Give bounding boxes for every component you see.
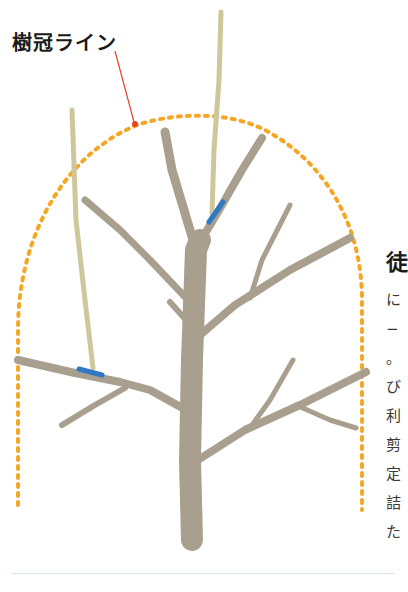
side-text-line: 定: [386, 460, 406, 489]
side-text-line: に: [386, 286, 406, 315]
side-text-line: 詰: [386, 489, 406, 518]
tree-branches: [18, 132, 366, 540]
left-water-sprout: [72, 110, 93, 368]
bottom-divider: [12, 573, 394, 574]
center-water-sprout: [212, 12, 221, 213]
leader-dot: [132, 121, 138, 127]
side-text-line: −: [386, 315, 406, 344]
side-text-line: 。: [386, 344, 406, 373]
side-text-line: 利: [386, 402, 406, 431]
side-text-line: び: [386, 373, 406, 402]
crown-line-label: 樹冠ライン: [12, 27, 117, 56]
side-text-column: 徒 に − 。 び 利 剪 定 詰 た: [386, 250, 406, 547]
side-heading: 徒: [386, 250, 406, 276]
leader-line: [115, 51, 134, 122]
side-text-line: た: [386, 518, 406, 547]
side-text-line: 剪: [386, 431, 406, 460]
